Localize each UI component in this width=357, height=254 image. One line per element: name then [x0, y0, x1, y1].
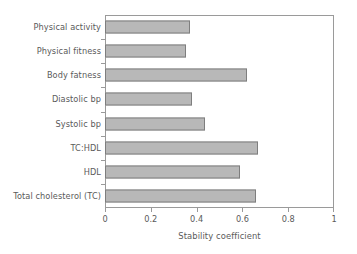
bar-diastolic-bp	[105, 93, 192, 106]
x-tick-mark	[242, 208, 243, 212]
y-axis-label: Diastolic bp	[0, 95, 101, 104]
y-tick-mark	[101, 136, 105, 137]
y-tick-mark	[101, 184, 105, 185]
bar-chart: Physical activity Physical fitness Body …	[0, 0, 357, 254]
y-axis-label: TC:HDL	[0, 143, 101, 152]
bar-series	[105, 15, 334, 208]
x-tick-mark	[105, 208, 106, 212]
y-tick-mark	[101, 160, 105, 161]
y-axis-label: Physical activity	[0, 23, 101, 32]
y-tick-mark	[101, 87, 105, 88]
bar-physical-activity	[105, 21, 190, 34]
y-axis-label: Physical fitness	[0, 47, 101, 56]
x-tick-mark	[197, 208, 198, 212]
y-axis-label: Total cholesterol (TC)	[0, 191, 101, 200]
y-tick-mark	[101, 39, 105, 40]
y-tick-mark	[101, 63, 105, 64]
x-tick-mark	[288, 208, 289, 212]
bar-body-fatness	[105, 69, 247, 82]
y-axis-label: Systolic bp	[0, 119, 101, 128]
bar-total-cholesterol	[105, 189, 256, 202]
x-tick-label: 0	[102, 214, 107, 224]
bar-systolic-bp	[105, 117, 205, 130]
x-tick-mark	[151, 208, 152, 212]
x-tick-label: 1	[331, 214, 336, 224]
x-tick-label: 0.6	[236, 214, 249, 224]
x-tick-mark	[333, 208, 334, 212]
y-axis-label: Body fatness	[0, 71, 101, 80]
x-tick-label: 0.8	[282, 214, 295, 224]
x-tick-label: 0.4	[190, 214, 203, 224]
y-axis-labels: Physical activity Physical fitness Body …	[0, 15, 101, 208]
x-axis-title: Stability coefficient	[105, 231, 334, 241]
y-tick-mark	[101, 112, 105, 113]
y-axis-label: HDL	[0, 167, 101, 176]
bar-hdl	[105, 165, 240, 178]
bar-physical-fitness	[105, 45, 186, 58]
bar-tc-hdl	[105, 141, 258, 154]
x-tick-label: 0.2	[144, 214, 157, 224]
